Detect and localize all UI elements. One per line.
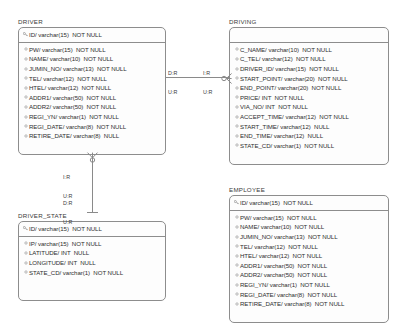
label-line-2: U:R (168, 89, 178, 95)
circle-icon (233, 86, 240, 90)
circle-icon (22, 95, 29, 99)
table-row[interactable]: PRICE/ INT NOT NULL (233, 93, 385, 103)
column-definition: DRIVER_ID/ varchar(15) NOT NULL (240, 65, 339, 72)
entity-employee[interactable]: EMPLOYEE ID/ varchar(15) NOT NULL (229, 186, 389, 323)
column-definition: JUMIN_NO/ varchar(13) NOT NULL (240, 233, 338, 240)
table-row[interactable]: PW/ varchar(15) NOT NULL (233, 213, 385, 223)
column-definition: REGI_YN/ varchar(1) NOT NULL (29, 113, 119, 120)
entity-box-employee: ID/ varchar(15) NOT NULL PW/ varchar(15)… (229, 195, 389, 323)
column-definition: ADDR1/ varchar(50) NOT NULL (29, 94, 116, 101)
column-definition: START_TIME/ varchar(12) NULL (240, 123, 329, 130)
table-row[interactable]: END_TIME/ varchar(12) NULL (233, 131, 385, 141)
column-definition: END_POINT/ varchar(20) NOT NULL (240, 84, 341, 91)
table-row-spacer (22, 287, 162, 297)
table-row[interactable]: NAME/ varchar(10) NOT NULL (233, 222, 385, 232)
table-row[interactable]: ADDR1/ varchar(50) NOT NULL (233, 261, 385, 271)
column-definition: HTEL/ varchar(12) NOT NULL (240, 252, 322, 259)
column-definition: ADDR1/ varchar(50) NOT NULL (240, 262, 327, 269)
column-definition: ID/ varchar(15) NOT NULL (240, 199, 313, 206)
column-definition: RETIRE_DATE/ varchar(8) NULL (29, 132, 119, 139)
circle-icon (22, 251, 29, 255)
table-row[interactable]: ID/ varchar(15) NOT NULL (22, 224, 162, 234)
label-line-1: D:R (168, 70, 178, 76)
table-row[interactable]: REGI_DATE/ varchar(8) NOT NULL (22, 121, 162, 131)
circle-icon (233, 105, 240, 109)
column-definition: PRICE/ INT NOT NULL (240, 94, 304, 101)
entity-driver-state[interactable]: DRIVER_STATE ID/ varchar(15) NOT NULL (18, 212, 166, 301)
table-row-spacer (22, 277, 162, 287)
table-row[interactable]: DRIVER_ID/ varchar(15) NOT NULL (233, 64, 385, 74)
table-row[interactable]: ID/ varchar(15) NOT NULL (22, 30, 162, 40)
circle-icon (233, 302, 240, 306)
circle-icon (233, 263, 240, 267)
table-row[interactable]: IP/ varchar(15) NOT NULL (22, 239, 162, 249)
table-row[interactable]: C_TEL/ varchar(12) NOT NULL (233, 54, 385, 64)
key-icon (22, 226, 29, 231)
table-row[interactable]: END_POINT/ varchar(20) NOT NULL (233, 83, 385, 93)
table-row[interactable]: STATE_CD/ varchar(1) NOT NULL (22, 267, 162, 277)
column-definition: END_TIME/ varchar(12) NULL (240, 132, 323, 139)
circle-icon (22, 115, 29, 119)
attribute-band-employee: PW/ varchar(15) NOT NULL NAME/ varchar(1… (230, 211, 388, 323)
column-definition: REGI_DATE/ varchar(8) NOT NULL (240, 291, 337, 298)
table-row[interactable]: REGI_DATE/ varchar(8) NOT NULL (233, 289, 385, 299)
table-row[interactable]: RETIRE_DATE/ varchar(8) NULL (22, 131, 162, 141)
circle-icon (22, 241, 29, 245)
table-row[interactable]: C_NAME/ varchar(10) NOT NULL (233, 45, 385, 55)
table-row[interactable]: ADDR1/ varchar(50) NOT NULL (22, 93, 162, 103)
table-row[interactable]: REGI_YN/ varchar(1) NOT NULL (233, 280, 385, 290)
key-icon (22, 32, 29, 37)
column-definition: REGI_DATE/ varchar(8) NOT NULL (29, 123, 126, 130)
relationship-target-label-driver-driving: I:R U:R (203, 58, 213, 108)
label-line-2: U:R (63, 219, 73, 225)
entity-driving[interactable]: DRIVING C_NAME/ varchar(10) NOT NULL C_T… (229, 18, 389, 165)
table-row[interactable]: ADDR2/ varchar(50) NOT NULL (233, 270, 385, 280)
entity-title-driving: DRIVING (229, 18, 389, 25)
label-line-1: I:R (203, 70, 213, 76)
circle-icon (22, 67, 29, 71)
circle-icon (233, 283, 240, 287)
table-row[interactable]: PW/ varchar(15) NOT NULL (22, 45, 162, 55)
table-row[interactable]: NAME/ varchar(10) NOT NULL (22, 54, 162, 64)
table-row[interactable]: HTEL/ varchar(12) NOT NULL (22, 83, 162, 93)
entity-driver[interactable]: DRIVER ID/ varchar(15) NOT NULL (18, 18, 166, 155)
circle-icon (233, 273, 240, 277)
table-row[interactable]: JUMIN_NO/ varchar(13) NOT NULL (22, 64, 162, 74)
label-line-2: U:R (203, 89, 213, 95)
table-row[interactable]: REGI_YN/ varchar(1) NOT NULL (22, 112, 162, 122)
primary-key-band-employee: ID/ varchar(15) NOT NULL (230, 196, 388, 211)
table-row[interactable]: ACCEPT_TIME/ varchar(12) NOT NULL (233, 112, 385, 122)
table-row[interactable]: LONGITUDE/ INT NULL (22, 258, 162, 268)
circle-icon (22, 105, 29, 109)
table-row[interactable]: ADDR2/ varchar(50) NOT NULL (22, 102, 162, 112)
column-definition: LATITUDE/ INT NULL (29, 249, 89, 256)
table-row[interactable]: ID/ varchar(15) NOT NULL (233, 198, 385, 208)
label-line-1: D:R (63, 200, 73, 206)
circle-icon (22, 270, 29, 274)
primary-key-band-driving (230, 28, 388, 43)
crowsfoot-driving (220, 71, 232, 89)
circle-icon (233, 124, 240, 128)
table-row[interactable]: TEL/ varchar(12) NOT NULL (22, 73, 162, 83)
column-definition: STATE_CD/ varchar(1) NOT NULL (240, 142, 334, 149)
table-row[interactable]: RETIRE_DATE/ varchar(8) NOT NULL (233, 299, 385, 309)
key-icon (233, 200, 240, 205)
entity-box-driving: C_NAME/ varchar(10) NOT NULL C_TEL/ varc… (229, 27, 389, 165)
table-row[interactable]: TEL/ varchar(12) NOT NULL (233, 241, 385, 251)
circle-icon (233, 292, 240, 296)
table-row[interactable]: HTEL/ varchar(12) NOT NULL (233, 251, 385, 261)
column-definition: REGI_YN/ varchar(1) NOT NULL (240, 281, 330, 288)
circle-icon (233, 67, 240, 71)
circle-icon (22, 124, 29, 128)
table-row[interactable]: LATITUDE/ INT NULL (22, 248, 162, 258)
table-row[interactable]: STATE_CD/ varchar(1) NOT NULL (233, 141, 385, 151)
table-row[interactable]: START_POINT/ varchar(20) NOT NULL (233, 73, 385, 83)
table-row[interactable]: START_TIME/ varchar(12) NULL (233, 121, 385, 131)
attribute-band-driving: C_NAME/ varchar(10) NOT NULL C_TEL/ varc… (230, 43, 388, 164)
table-row[interactable]: JUMIN_NO/ varchar(13) NOT NULL (233, 232, 385, 242)
table-row-spacer (22, 141, 162, 151)
column-definition: C_TEL/ varchar(12) NOT NULL (240, 55, 326, 62)
table-row[interactable]: VIA_NO/ INT NOT NULL (233, 102, 385, 112)
attribute-band-driver-state: IP/ varchar(15) NOT NULL LATITUDE/ INT N… (19, 237, 165, 301)
entity-title-employee: EMPLOYEE (229, 186, 389, 193)
